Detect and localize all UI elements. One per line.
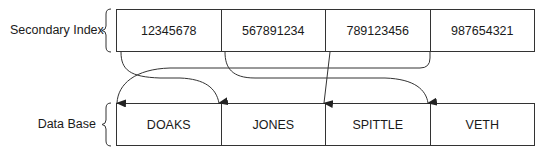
- data-base-cell: DOAKS: [117, 104, 221, 145]
- pointer-arrow-12345678-to-jones: [121, 52, 219, 103]
- index-cell: 12345678: [117, 10, 221, 51]
- secondary-index-label: Secondary Index: [10, 23, 96, 37]
- pointer-arrow-567891234-to-veth: [225, 52, 428, 103]
- data-base-row: DOAKS JONES SPITTLE VETH: [116, 103, 535, 146]
- secondary-index-row: 12345678 567891234 789123456 987654321: [116, 9, 535, 52]
- index-cell: 567891234: [221, 10, 326, 51]
- data-base-brace-icon: [102, 103, 111, 146]
- pointer-arrow-789123456-to-spittle: [324, 52, 330, 103]
- index-cell: 987654321: [430, 10, 535, 51]
- data-base-cell: SPITTLE: [325, 104, 430, 145]
- index-cell: 789123456: [325, 10, 430, 51]
- data-base-cell: VETH: [430, 104, 535, 145]
- data-base-cell: JONES: [221, 104, 326, 145]
- pointer-arrow-987654321-to-doaks: [117, 52, 430, 103]
- data-base-label: Data Base: [10, 117, 96, 131]
